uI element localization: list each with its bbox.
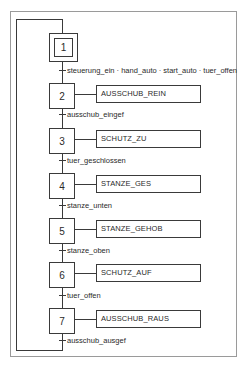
transition-6-7 <box>59 295 66 296</box>
action-box: STANZE_GEHOB <box>96 220 201 238</box>
transition-3-4 <box>59 160 66 161</box>
step-number: 6 <box>59 270 65 281</box>
step-number: 4 <box>59 181 65 192</box>
action-connector <box>75 184 96 185</box>
transition-condition: ausschub_ausgef <box>67 336 126 345</box>
step-number: 7 <box>59 316 65 327</box>
action-box: SCHUTZ_AUF <box>96 264 201 282</box>
transition-2-3 <box>59 114 66 115</box>
transition-condition: stanze_unten <box>67 201 112 210</box>
action-connector <box>75 229 96 230</box>
transition-7-1 <box>59 340 66 341</box>
action-box: AUSSCHUB_REIN <box>96 85 201 103</box>
step-2: 2 <box>49 83 75 109</box>
step-5: 5 <box>49 218 75 244</box>
transition-4-5 <box>59 205 66 206</box>
action-box: AUSSCHUB_RAUS <box>96 310 201 328</box>
step-number: 1 <box>61 42 67 53</box>
transition-1-2 <box>59 70 66 71</box>
loop-line-top <box>16 19 63 20</box>
step-7: 7 <box>49 308 75 334</box>
loop-line-bottom <box>16 350 63 351</box>
step-number: 2 <box>59 91 65 102</box>
action-connector <box>75 273 96 274</box>
action-connector <box>75 94 96 95</box>
initial-step-inner: 1 <box>54 38 73 57</box>
action-box: STANZE_GES <box>96 175 201 193</box>
step-3: 3 <box>49 128 75 154</box>
step-number: 3 <box>59 136 65 147</box>
transition-5-6 <box>59 250 66 251</box>
transition-condition: stanze_oben <box>67 246 110 255</box>
action-connector <box>75 139 96 140</box>
action-box: SCHUTZ_ZU <box>96 130 201 148</box>
transition-condition: ausschub_eingef <box>67 110 124 119</box>
step-4: 4 <box>49 173 75 199</box>
step-number: 5 <box>59 226 65 237</box>
action-connector <box>75 319 96 320</box>
transition-condition: tuer_geschlossen <box>67 156 126 165</box>
transition-condition: steuerung_ein · hand_auto · start_auto ·… <box>67 66 237 75</box>
initial-step-1: 1 <box>49 33 78 62</box>
step-6: 6 <box>49 262 75 288</box>
transition-condition: tuer_offen <box>67 291 101 300</box>
loop-line-left <box>16 19 17 351</box>
